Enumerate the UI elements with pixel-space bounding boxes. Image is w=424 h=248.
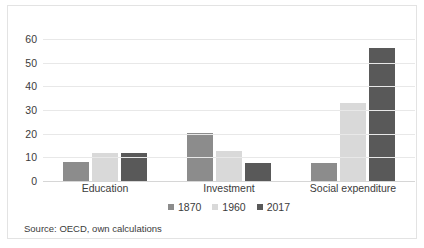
gridline xyxy=(43,39,415,40)
bar-1870-education[interactable] xyxy=(63,162,89,181)
bar-2017-investment[interactable] xyxy=(245,163,271,181)
gridline xyxy=(43,110,415,111)
chart-legend: 187019602017 xyxy=(43,202,415,213)
legend-entry-1960[interactable]: 1960 xyxy=(212,202,245,213)
legend-label: 2017 xyxy=(267,202,290,213)
category-axis: EducationInvestmentSocial expenditure xyxy=(43,183,415,195)
y-axis-tick-label: 20 xyxy=(25,128,37,139)
legend-swatch-icon xyxy=(212,204,218,210)
y-axis-tick-label: 30 xyxy=(25,105,37,116)
legend-label: 1870 xyxy=(178,202,201,213)
y-axis-tick-label: 40 xyxy=(25,81,37,92)
legend-swatch-icon xyxy=(168,204,174,210)
category-label-education: Education xyxy=(43,183,167,195)
category-label-investment: Investment xyxy=(167,183,291,195)
category-label-social-expenditure: Social expenditure xyxy=(291,183,415,195)
chart-container: 0102030405060 EducationInvestmentSocial … xyxy=(0,0,424,248)
y-axis-tick-label: 60 xyxy=(25,34,37,45)
legend-label: 1960 xyxy=(222,202,245,213)
bar-2017-social-expenditure[interactable] xyxy=(369,48,395,181)
y-axis-tick-label: 0 xyxy=(31,176,37,187)
bar-1870-social-expenditure[interactable] xyxy=(311,163,337,181)
y-axis-tick-label: 50 xyxy=(25,57,37,68)
legend-entry-1870[interactable]: 1870 xyxy=(168,202,201,213)
gridline xyxy=(43,134,415,135)
plot-area: 0102030405060 xyxy=(43,39,415,181)
source-note: Source: OECD, own calculations xyxy=(24,223,162,234)
chart-frame: 0102030405060 EducationInvestmentSocial … xyxy=(7,5,417,239)
gridline xyxy=(43,86,415,87)
legend-entry-2017[interactable]: 2017 xyxy=(257,202,290,213)
gridline xyxy=(43,157,415,158)
bar-1960-investment[interactable] xyxy=(216,151,242,181)
bar-1960-social-expenditure[interactable] xyxy=(340,103,366,181)
gridline xyxy=(43,63,415,64)
y-axis-tick-label: 10 xyxy=(25,152,37,163)
legend-swatch-icon xyxy=(257,204,263,210)
